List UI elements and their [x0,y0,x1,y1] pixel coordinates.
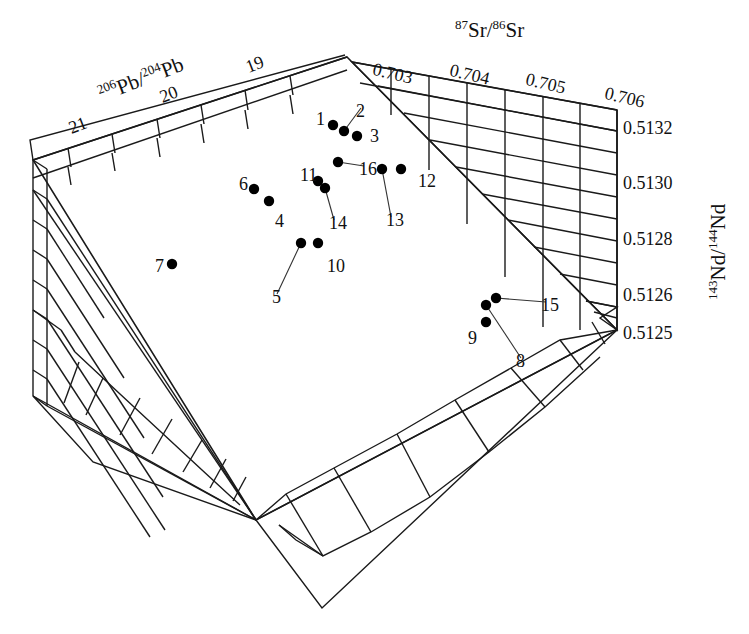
data-point[interactable] [313,238,323,248]
data-point[interactable] [296,238,306,248]
sr-nd-back-panel [352,62,617,330]
data-point-label: 16 [359,160,377,178]
tick-nd-05130: 0.5130 [623,174,673,192]
data-point-label: 11 [300,166,317,184]
tick-nd-05125: 0.5125 [623,324,673,342]
data-point-label: 8 [516,352,525,370]
data-point-label: 6 [239,175,248,193]
axis-title-sr: 87Sr/86Sr [455,18,524,41]
data-point[interactable] [249,184,259,194]
axis-title-nd: 143Nd/144Nd [706,204,729,300]
data-point-label: 7 [155,257,164,275]
data-point[interactable] [333,157,343,167]
data-point[interactable] [481,300,491,310]
data-point-label: 10 [327,257,345,275]
data-point-label: 15 [541,296,559,314]
data-point[interactable] [339,126,349,136]
data-point-label: 14 [329,214,347,232]
data-point-label: 4 [275,212,284,230]
data-point-label: 9 [468,329,477,347]
data-point-label: 2 [356,102,365,120]
data-point-label: 3 [370,127,379,145]
data-point[interactable] [377,164,387,174]
data-points-layer [167,108,546,358]
data-point-label: 5 [272,288,281,306]
data-point-label: 1 [316,110,325,128]
data-point[interactable] [328,120,338,130]
floor-wedge-right [256,322,617,608]
data-point[interactable] [481,317,491,327]
data-point[interactable] [396,164,406,174]
tick-nd-05132: 0.5132 [623,119,673,137]
tick-nd-05126: 0.5126 [623,286,673,304]
data-point-label: 13 [386,211,404,229]
data-point[interactable] [167,259,177,269]
data-point[interactable] [352,131,362,141]
isotope-3d-figure: 206Pb/204Pb 87Sr/86Sr 143Nd/144Nd 21 20 … [0,0,749,634]
data-point[interactable] [491,293,501,303]
data-plane-outline [33,57,617,520]
point-leader-line [496,298,546,302]
data-point[interactable] [320,183,330,193]
data-point[interactable] [264,196,274,206]
tick-nd-05128: 0.5128 [623,230,673,248]
data-point-label: 12 [418,172,436,190]
